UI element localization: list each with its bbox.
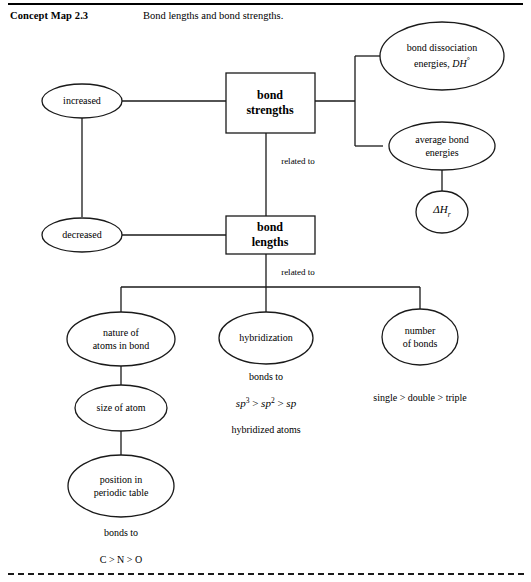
position-line2: periodic table [94,486,149,497]
node-bond-dissociation-label: bond dissociation energies, DH° [407,42,477,70]
delta-h-subscript: r [448,210,451,219]
node-bond-lengths-label: bond lengths [252,220,289,250]
sp-symbol: sp [286,397,296,409]
node-position-periodic-table-label: position in periodic table [94,474,149,499]
position-line1: position in [100,474,143,485]
node-delta-h-label: ΔHr [433,203,450,220]
average-bond-line2: energies [425,146,458,157]
edge-label-bonds-to-hybridization: bonds to [249,371,283,383]
sp3-symbol: sp [236,397,246,409]
number-line1: number [405,325,436,336]
node-size-of-atom-label: size of atom [97,402,146,414]
number-line2: of bonds [403,337,438,348]
sp2-symbol: sp [261,397,271,409]
bond-dissociation-symbol: DH [452,58,466,69]
node-increased-label: increased [63,95,101,107]
edge-label-bonds-to-position: bonds to [104,527,138,539]
greater-than-2: > [277,397,283,409]
annotation-bond-order-series: single > double > triple [373,392,467,404]
annotation-sp-hybridization-series: sp3 > sp2 > sp [236,395,296,410]
sp2-exponent: 2 [271,396,275,405]
bond-dissociation-line1: bond dissociation [407,42,477,53]
node-bond-strengths-label: bond strengths [246,88,293,118]
average-bond-line1: average bond [415,134,469,145]
annotation-electronegativity-series: C > N > O [100,554,142,566]
bond-dissociation-line2: energies, [414,58,450,69]
node-average-bond-energies-label: average bond energies [415,134,469,159]
degree-sign: ° [467,55,470,64]
nature-line2: atoms in bond [93,339,150,350]
node-decreased-label: decreased [62,229,101,241]
sp3-exponent: 3 [246,396,250,405]
greater-than-1: > [252,397,258,409]
nature-line1: nature of [103,327,139,338]
edge-label-related-to-lower: related to [281,266,315,278]
delta-h-symbol: ΔH [433,203,447,215]
footer-dashed-rule [8,573,524,575]
node-nature-of-atoms-label: nature of atoms in bond [93,327,150,352]
annotation-hybridized-atoms: hybridized atoms [231,424,300,436]
edge-label-related-to-upper: related to [281,155,315,167]
node-hybridization-label: hybridization [239,332,292,344]
concept-map-page: Concept Map 2.3 Bond lengths and bond st… [0,0,531,582]
node-number-of-bonds-label: number of bonds [403,325,438,350]
